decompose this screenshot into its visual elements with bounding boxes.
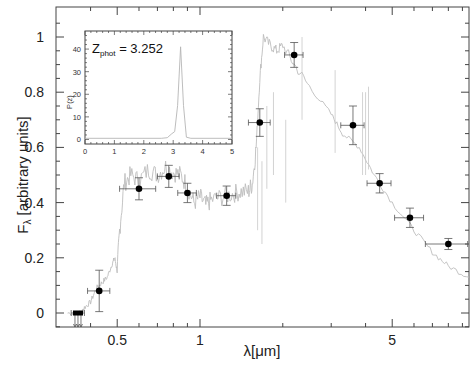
data-point: [395, 208, 424, 227]
sed-chart: 0.51500.20.40.60.81 012345010203040 λ[μm…: [0, 0, 473, 368]
data-point: [88, 270, 110, 311]
inset-x-tick-label: 3: [171, 147, 175, 156]
inset-y-tick-label: 30: [73, 68, 81, 77]
data-point: [217, 186, 236, 205]
x-tick-label: 0.5: [107, 332, 127, 348]
inset-x-tick-label: 1: [112, 147, 116, 156]
inset-y-tick-label: 40: [73, 45, 81, 54]
y-axis-title: Fλ [arbitrary units]: [14, 116, 33, 234]
inset-y-axis-title: P(z): [65, 95, 74, 109]
data-point: [341, 106, 364, 145]
x-tick-label: 5: [388, 332, 396, 348]
inset-y-tick-label: 0: [77, 135, 81, 144]
y-tick-label: 0.8: [25, 84, 45, 100]
inset-x-tick-label: 0: [83, 147, 87, 156]
data-point: [367, 174, 391, 193]
y-tick-label: 0: [36, 305, 44, 321]
y-tick-label: 0.2: [25, 250, 45, 266]
y-tick-label: 1: [36, 29, 44, 45]
x-axis-title: λ[μm]: [244, 342, 281, 359]
inset-x-tick-label: 4: [201, 147, 205, 156]
inset-y-tick-label: 10: [73, 113, 81, 122]
x-tick-label: 1: [196, 332, 204, 348]
inset-x-tick-label: 2: [142, 147, 146, 156]
data-point: [425, 238, 467, 249]
data-point: [285, 43, 303, 68]
inset-x-tick-label: 5: [230, 147, 234, 156]
data-point: [71, 310, 84, 327]
